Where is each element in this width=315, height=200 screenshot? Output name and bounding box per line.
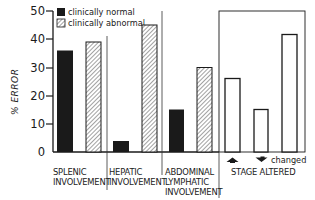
stage-altered-label: STAGE ALTERED — [231, 167, 295, 177]
category-label-hepatic-2: INVOLVEMENT — [109, 177, 167, 187]
category-label-abdominal-2: LYMPHATIC — [165, 177, 209, 187]
error-bar-chart: % ERROR 50 40 30 20 10 0 clinically norm… — [0, 0, 315, 200]
bar-stage-down — [254, 110, 268, 153]
category-label-splenic-2: INVOLVEMENT — [53, 177, 111, 187]
bar-stage-up — [225, 79, 240, 153]
y-tick-40: 40 — [30, 32, 45, 46]
up-arrow-icon — [227, 158, 239, 164]
legend-label-normal: clinically normal — [68, 7, 135, 17]
legend-swatch-abnormal — [57, 19, 65, 27]
y-tick-20: 20 — [30, 89, 45, 103]
category-label-hepatic-1: HEPATIC — [109, 167, 143, 177]
changed-label: changed — [271, 155, 306, 165]
bar-splenic-normal — [57, 51, 73, 153]
category-label-abdominal-3: INVOLVEMENT — [165, 187, 223, 197]
category-label-abdominal-1: ABDOMINAL — [165, 167, 215, 177]
category-label-splenic-1: SPLENIC — [53, 167, 87, 177]
bar-abdominal-abnormal — [197, 68, 212, 153]
legend-label-abnormal: clinically abnormal — [68, 18, 145, 28]
down-arrow-icon — [256, 157, 268, 163]
y-axis-title: % ERROR — [10, 69, 20, 115]
y-tick-50: 50 — [30, 4, 45, 18]
bar-stage-changed — [282, 35, 297, 153]
y-tick-10: 10 — [30, 117, 45, 131]
bar-hepatic-normal — [113, 141, 129, 152]
bar-hepatic-abnormal — [142, 25, 157, 152]
y-axis: 50 40 30 20 10 0 — [30, 4, 53, 159]
bar-abdominal-normal — [169, 110, 184, 153]
y-tick-30: 30 — [30, 61, 45, 75]
legend: clinically normal clinically abnormal — [57, 7, 145, 28]
y-tick-0: 0 — [38, 145, 45, 159]
legend-swatch-normal — [57, 8, 65, 16]
bar-splenic-abnormal — [86, 42, 101, 152]
